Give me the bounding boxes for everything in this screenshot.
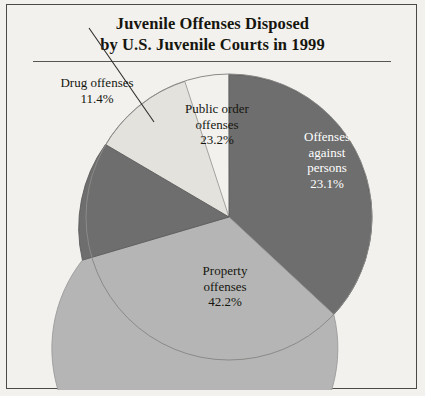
pie-label-persons-name-1: Offenses	[275, 129, 379, 145]
pie-chart-svg	[7, 5, 418, 390]
pie-label-persons-value: 23.1%	[275, 176, 379, 192]
pie-label-property-offenses: Property offenses 42.2%	[165, 263, 285, 310]
pie-label-public-order-name-2: offenses	[158, 117, 276, 133]
figure-container: Juvenile Offenses Disposed by U.S. Juven…	[0, 0, 425, 396]
figure-frame: Juvenile Offenses Disposed by U.S. Juven…	[6, 4, 417, 389]
pie-label-property-name-1: Property	[165, 263, 285, 279]
pie-label-drug-offenses: Drug offenses 11.4%	[33, 75, 161, 106]
pie-label-property-value: 42.2%	[165, 294, 285, 310]
pie-label-drug-offenses-value: 11.4%	[33, 91, 161, 107]
pie-chart: Drug offenses 11.4% Public order offense…	[7, 5, 418, 390]
pie-label-public-order-name-1: Public order	[158, 101, 276, 117]
pie-label-persons-name-2: against	[275, 145, 379, 161]
pie-label-drug-offenses-name: Drug offenses	[33, 75, 161, 91]
pie-label-offenses-against-persons: Offenses against persons 23.1%	[275, 129, 379, 191]
pie-label-public-order-value: 23.2%	[158, 132, 276, 148]
pie-label-persons-name-3: persons	[275, 160, 379, 176]
pie-label-public-order: Public order offenses 23.2%	[158, 101, 276, 148]
pie-label-property-name-2: offenses	[165, 279, 285, 295]
